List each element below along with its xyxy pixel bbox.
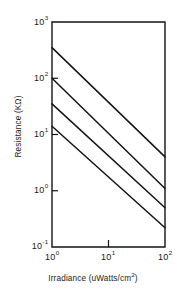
y-axis-ticks: [52, 78, 58, 191]
chart-figure: Resistance (KΩ) Irradiance (uWatts/cm2) …: [0, 0, 186, 294]
plot-area: [0, 0, 186, 294]
data-series-group: [52, 48, 165, 228]
data-line-curve-2: [52, 78, 165, 188]
data-line-curve-3: [52, 104, 165, 208]
